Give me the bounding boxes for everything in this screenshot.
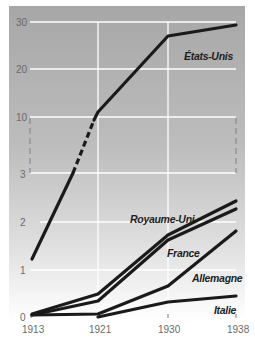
- label-italie: Italie: [214, 304, 237, 316]
- y-tick-2: 2: [20, 217, 26, 228]
- x-tick-1930: 1930: [158, 324, 181, 335]
- y-tick-1: 1: [20, 265, 26, 276]
- x-tick-1913: 1913: [22, 324, 45, 335]
- label-france: France: [167, 247, 200, 259]
- y-tick-10: 10: [16, 112, 28, 123]
- y-tick-20: 20: [16, 64, 28, 75]
- x-axis-labels: 1913 1921 1930 1938: [22, 324, 250, 335]
- line-chart: 30 20 10 3 2 1 0 1913 1921 1930 1938 Éta…: [0, 0, 255, 348]
- label-allemagne: Allemagne: [191, 272, 243, 284]
- label-royaume-uni: Royaume-Uni: [130, 213, 196, 225]
- x-tick-1921: 1921: [89, 324, 112, 335]
- y-tick-0: 0: [20, 312, 26, 323]
- y-tick-30: 30: [16, 17, 28, 28]
- y-tick-3: 3: [20, 169, 26, 180]
- label-etats-unis: États-Unis: [184, 50, 233, 62]
- x-tick-1938: 1938: [227, 324, 250, 335]
